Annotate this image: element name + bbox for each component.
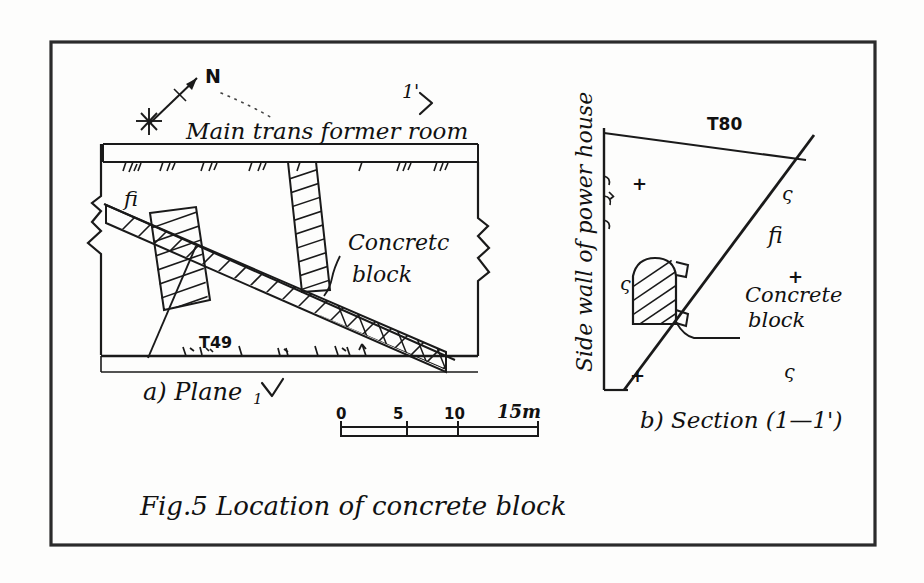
section-subcaption: b) Section (1—1')	[640, 407, 842, 433]
scale-label-10: 10	[444, 405, 465, 423]
section-wall-ticks	[604, 176, 614, 229]
plan-section-arrow-end	[420, 93, 432, 114]
scale-label-15m: 15m	[497, 401, 541, 422]
section-marker: ς	[620, 272, 631, 294]
section-marker: ς	[782, 182, 793, 204]
engineering-drawing-svg: N Main trans former room 1' 1	[0, 0, 924, 583]
section-top-line	[604, 133, 806, 160]
section-marker: +	[630, 365, 645, 386]
figure-caption: Fig.5 Location of concrete block	[139, 491, 566, 521]
plan-borehole-line	[148, 246, 196, 358]
plan-right-wall-break	[478, 162, 489, 356]
plan-top-wall-earth-hatch	[123, 162, 448, 172]
plan-concrete-band	[106, 192, 480, 380]
plan-room-label: Main trans former room	[185, 118, 468, 144]
section-wall-label: Side wall of power house	[572, 92, 597, 372]
plan-borehole-label: T49	[199, 333, 232, 352]
section-fault-line	[624, 135, 814, 390]
section-marker: ς	[784, 360, 795, 382]
north-dotted-arc	[221, 93, 272, 118]
section-fault-label: fi	[766, 223, 783, 248]
scale-bar	[341, 421, 538, 436]
plan-subcaption: a) Plane	[143, 378, 242, 406]
section-marker: +	[632, 173, 647, 194]
plan-block-label-1: Concretc	[348, 230, 449, 255]
section-borehole-label: T80	[707, 114, 742, 134]
section-marker: +	[788, 266, 803, 287]
plan-left-wall-break	[88, 144, 101, 355]
plan-section-arrow-start	[262, 379, 283, 396]
plan-top-wall	[103, 144, 478, 162]
section-block-label-2: block	[748, 308, 805, 332]
section-concrete-block	[625, 248, 690, 348]
plan-section-marker-start: 1	[253, 390, 263, 408]
scale-label-0: 0	[336, 405, 346, 423]
plan-fault-label: fi	[122, 187, 138, 211]
figure-page: N Main trans former room 1' 1	[0, 0, 924, 583]
north-label: N	[205, 65, 221, 87]
section-rock-markers: + ς ς + + ς	[620, 173, 803, 386]
plan-section-marker-end: 1'	[402, 80, 419, 102]
scale-label-5: 5	[393, 405, 403, 423]
plan-block-label-2: block	[352, 262, 412, 287]
